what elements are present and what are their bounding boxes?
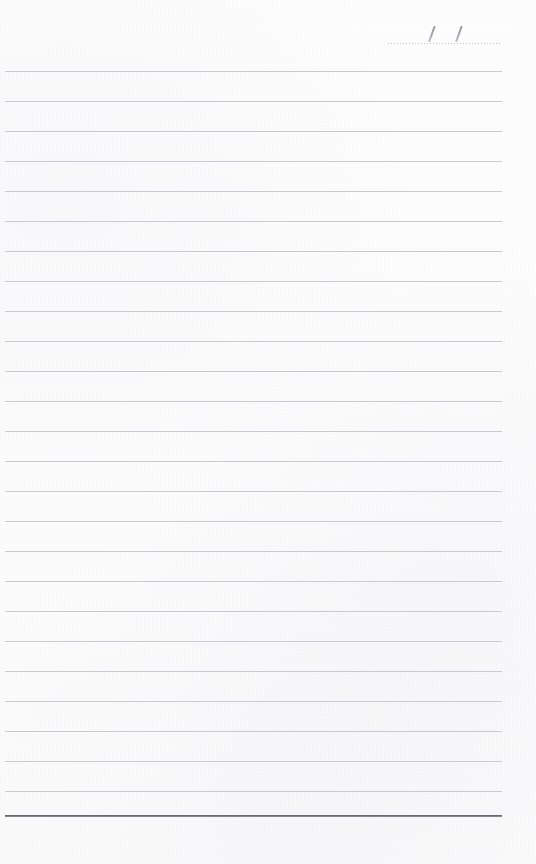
writing-line: [5, 371, 502, 372]
writing-line: [5, 671, 502, 672]
writing-line: [5, 191, 502, 192]
writing-line: [5, 521, 502, 522]
writing-line: [5, 551, 502, 552]
writing-line: [5, 131, 502, 132]
writing-line: [5, 491, 502, 492]
writing-line: [5, 791, 502, 792]
writing-line: [5, 641, 502, 642]
writing-line: [5, 281, 502, 282]
writing-line: [5, 461, 502, 462]
writing-line: [5, 71, 502, 72]
writing-line: [5, 581, 502, 582]
writing-line: [5, 311, 502, 312]
writing-line: [5, 341, 502, 342]
writing-line: [5, 161, 502, 162]
writing-line: [5, 701, 502, 702]
writing-line: [5, 101, 502, 102]
writing-line: [5, 251, 502, 252]
bottom-border-line: [5, 815, 502, 817]
writing-line: [5, 761, 502, 762]
writing-line: [5, 221, 502, 222]
notebook-page: [0, 0, 536, 864]
writing-line: [5, 611, 502, 612]
writing-line: [5, 731, 502, 732]
writing-line: [5, 401, 502, 402]
ruled-lines-group: [0, 0, 536, 864]
writing-line: [5, 431, 502, 432]
